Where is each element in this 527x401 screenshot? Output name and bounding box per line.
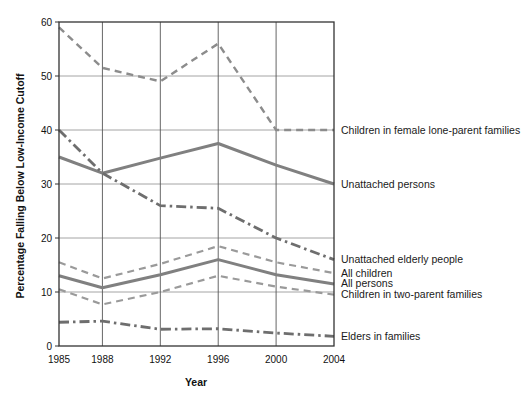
y-tick-label: 20 bbox=[41, 233, 53, 244]
series-label-0: Children in female lone-parent families bbox=[341, 124, 520, 136]
x-axis-tick-labels: 198519881992199620002004 bbox=[48, 354, 346, 365]
y-tick-label: 10 bbox=[41, 287, 53, 298]
series-line-6 bbox=[59, 321, 334, 336]
series-label-6: Elders in families bbox=[341, 330, 420, 342]
y-tick-label: 40 bbox=[41, 125, 53, 136]
y-tick-label: 0 bbox=[46, 341, 52, 352]
series-line-0 bbox=[59, 27, 334, 130]
x-tick-label: 2000 bbox=[265, 354, 288, 365]
x-tick-label: 2004 bbox=[323, 354, 346, 365]
y-axis-tick-labels: 0102030405060 bbox=[41, 17, 59, 352]
series-line-4 bbox=[59, 260, 334, 288]
line-chart: 0102030405060 198519881992199620002004 C… bbox=[0, 0, 527, 401]
chart-container: 0102030405060 198519881992199620002004 C… bbox=[0, 0, 527, 401]
x-tick-label: 1996 bbox=[207, 354, 230, 365]
x-tick-label: 1992 bbox=[149, 354, 172, 365]
series-line-1 bbox=[59, 144, 334, 185]
series-line-5 bbox=[59, 276, 334, 305]
x-tick-label: 1985 bbox=[48, 354, 71, 365]
series-label-2: Unattached elderly people bbox=[341, 253, 463, 265]
y-axis-title: Percentage Falling Below Low-Income Cuto… bbox=[14, 73, 26, 299]
series-label-1: Unattached persons bbox=[341, 178, 435, 190]
x-axis-title: Year bbox=[185, 376, 207, 388]
series-line-3 bbox=[59, 246, 334, 278]
grid-lines bbox=[59, 22, 334, 346]
data-series-layer bbox=[59, 27, 334, 336]
x-tick-label: 1988 bbox=[91, 354, 114, 365]
y-tick-label: 60 bbox=[41, 17, 53, 28]
y-tick-label: 50 bbox=[41, 71, 53, 82]
series-label-5: Children in two-parent families bbox=[341, 288, 482, 300]
y-tick-label: 30 bbox=[41, 179, 53, 190]
series-labels: Children in female lone-parent familiesU… bbox=[341, 124, 520, 342]
